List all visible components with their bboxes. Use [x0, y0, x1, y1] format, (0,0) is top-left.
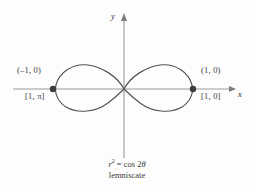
marked-point-left — [50, 86, 56, 92]
caption-equals-cos: = cos 2 — [115, 159, 142, 169]
x-axis-label: x — [238, 90, 242, 99]
caption-equation: r2 = cos 2θ — [0, 160, 254, 169]
caption-theta-symbol: θ — [141, 159, 145, 169]
caption-curve-name: lemniscate — [0, 171, 254, 180]
point-label-right-rectangular: (1, 0) — [201, 66, 221, 75]
lemniscate-figure: (–1, 0) [1, π] (1, 0) [1, 0] y x r2 = co… — [0, 0, 254, 192]
y-axis-label: y — [111, 12, 115, 21]
point-label-right-polar: [1, 0] — [201, 92, 221, 101]
marked-point-right — [190, 86, 196, 92]
point-label-left-polar: [1, π] — [25, 92, 45, 101]
point-label-left-rectangular: (–1, 0) — [17, 66, 41, 75]
